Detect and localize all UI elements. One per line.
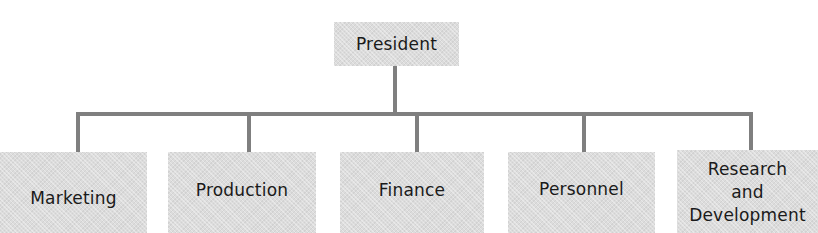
president-box: President [334, 22, 459, 66]
marketing-connector [76, 112, 80, 153]
marketing-label: Marketing [30, 187, 117, 210]
research-label-line1: Research [708, 158, 788, 181]
president-connector [393, 65, 397, 115]
finance-label: Finance [379, 179, 445, 202]
research-label-line3: Development [689, 204, 806, 227]
personnel-label: Personnel [539, 178, 624, 201]
personnel-box: Personnel [508, 152, 655, 233]
research-development-box: Research and Development [677, 150, 818, 233]
president-label: President [356, 33, 437, 56]
personnel-connector [582, 112, 586, 153]
research-connector [749, 112, 753, 151]
research-label-line2: and [731, 181, 764, 204]
production-box: Production [168, 152, 316, 233]
production-label: Production [196, 179, 288, 202]
finance-connector [415, 112, 419, 153]
finance-box: Finance [340, 152, 484, 233]
production-connector [247, 112, 251, 153]
marketing-box: Marketing [0, 152, 147, 233]
